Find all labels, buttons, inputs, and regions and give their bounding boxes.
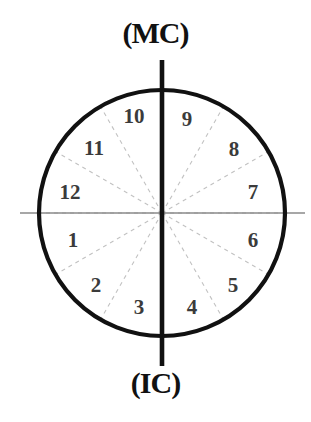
house-number-12: 12 [60, 182, 81, 203]
house-number-6: 6 [248, 230, 259, 251]
house-number-10: 10 [124, 106, 145, 127]
house-number-5: 5 [228, 275, 239, 296]
cusp-3-2-line [101, 213, 163, 320]
house-number-1: 1 [68, 230, 79, 251]
house-number-4: 4 [187, 297, 198, 318]
house-number-11: 11 [84, 138, 104, 159]
astrological-house-wheel [0, 0, 311, 422]
mc-label: (MC) [0, 18, 311, 48]
cusp-9-8-line [162, 106, 224, 213]
house-number-7: 7 [248, 182, 259, 203]
house-number-9: 9 [182, 109, 193, 130]
house-number-8: 8 [229, 139, 240, 160]
house-number-2: 2 [91, 275, 102, 296]
house-number-3: 3 [134, 297, 145, 318]
ic-label: (IC) [0, 368, 311, 398]
